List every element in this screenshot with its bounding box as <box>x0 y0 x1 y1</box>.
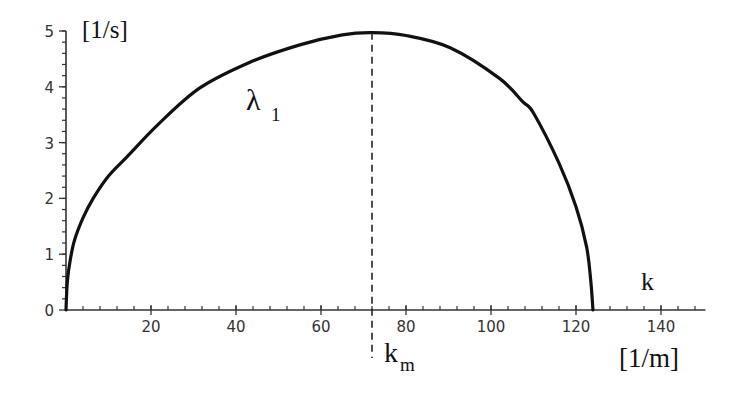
x-variable-label: k <box>641 267 654 296</box>
x-tick-label: 20 <box>141 318 160 336</box>
x-tick-label: 120 <box>562 318 591 336</box>
lambda1-curve <box>66 33 593 310</box>
y-tick-label: 3 <box>44 135 54 153</box>
curve-label-subscript: 1 <box>271 104 281 125</box>
y-tick-label: 0 <box>44 302 54 320</box>
y-unit-label: [1/s] <box>82 16 128 43</box>
tick-labels: 20406080100120140012345 <box>44 23 675 336</box>
chart-canvas: 20406080100120140012345 [1/s] λ 1 k k m … <box>0 0 734 401</box>
x-unit-label: [1/m] <box>619 343 679 373</box>
y-tick-label: 5 <box>44 23 54 41</box>
y-tick-label: 4 <box>44 79 54 97</box>
km-label-subscript: m <box>400 354 415 375</box>
x-tick-label: 60 <box>311 318 330 336</box>
x-tick-label: 100 <box>477 318 506 336</box>
tick-marks <box>59 31 695 315</box>
km-label: k <box>384 337 398 368</box>
curve-label-lambda: λ <box>246 83 261 116</box>
y-tick-label: 2 <box>44 190 54 208</box>
axes <box>66 31 706 310</box>
y-tick-label: 1 <box>44 246 54 264</box>
x-tick-label: 140 <box>647 318 676 336</box>
x-tick-label: 80 <box>396 318 415 336</box>
x-tick-label: 40 <box>226 318 245 336</box>
